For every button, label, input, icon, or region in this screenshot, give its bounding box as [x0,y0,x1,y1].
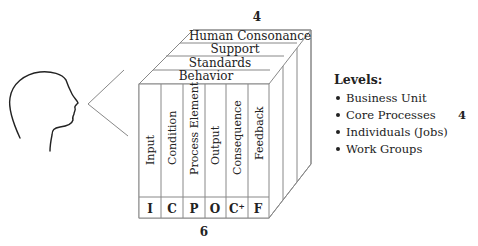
legend-item: Business Unit [334,90,448,107]
legend-item-label: Core Processes [346,108,436,122]
legend-list: Business Unit Core Processes4 Individual… [334,90,448,158]
top-count: 4 [253,10,261,24]
abbr-output: O [210,202,220,216]
legend-item: Work Groups [334,141,448,158]
levels-count: 4 [458,107,466,124]
layer-standards: Standards [189,56,251,70]
bullet-icon [336,147,340,151]
column-input: Input [144,134,157,165]
abbr-input: I [147,202,153,216]
legend-item: Individuals (Jobs) [334,124,448,141]
legend-item-label: Individuals (Jobs) [346,125,448,139]
legend-item-label: Work Groups [346,142,422,156]
bullet-icon [336,96,340,100]
abbr-feedback: F [254,202,263,216]
layer-human-consonance: Human Consonance [189,29,311,43]
column-consequence: Consequence [231,100,244,175]
abbr-consequence: C⁺ [229,202,245,216]
legend-title: Levels: [334,72,448,87]
layer-behavior: Behavior [179,69,234,83]
column-process-element: Process Element [188,81,201,175]
column-condition: Condition [166,111,179,165]
legend-item: Core Processes4 [334,107,448,124]
pointer-lines [88,70,128,136]
abbr-condition: C [167,202,177,216]
bottom-count: 6 [200,225,208,239]
bullet-icon [336,130,340,134]
human-head-profile-icon [10,72,78,151]
layer-support: Support [210,42,259,56]
column-output: Output [209,125,222,165]
abbr-process-element: P [189,202,198,216]
levels-legend: Levels: Business Unit Core Processes4 In… [334,72,448,158]
bullet-icon [336,113,340,117]
legend-item-label: Business Unit [346,91,427,105]
column-feedback: Feedback [253,106,266,160]
